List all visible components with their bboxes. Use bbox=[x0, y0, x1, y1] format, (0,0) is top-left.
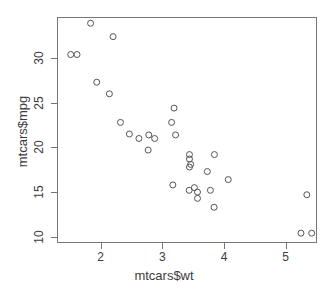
y-tick-mark bbox=[51, 103, 57, 104]
y-tick-label: 25 bbox=[32, 92, 46, 114]
y-tick-label: 15 bbox=[32, 181, 46, 203]
y-tick-label: 30 bbox=[32, 47, 46, 69]
y-tick-mark bbox=[51, 58, 57, 59]
x-tick-mark bbox=[286, 243, 287, 249]
x-tick-label: 4 bbox=[209, 250, 239, 264]
plot-frame bbox=[57, 17, 317, 243]
x-axis-title: mtcars$wt bbox=[0, 268, 328, 283]
scatter-plot-window: 2345 1015202530 mtcars$wt mtcars$mpg bbox=[0, 0, 328, 297]
x-tick-mark bbox=[162, 243, 163, 249]
x-tick-label: 5 bbox=[271, 250, 301, 264]
y-tick-mark bbox=[51, 147, 57, 148]
x-tick-label: 2 bbox=[86, 250, 116, 264]
y-tick-label: 10 bbox=[32, 226, 46, 248]
x-tick-mark bbox=[224, 243, 225, 249]
y-tick-label: 20 bbox=[32, 136, 46, 158]
y-axis-title: mtcars$mpg bbox=[15, 67, 30, 197]
y-tick-mark bbox=[51, 237, 57, 238]
x-tick-mark bbox=[101, 243, 102, 249]
y-tick-mark bbox=[51, 192, 57, 193]
x-tick-label: 3 bbox=[147, 250, 177, 264]
